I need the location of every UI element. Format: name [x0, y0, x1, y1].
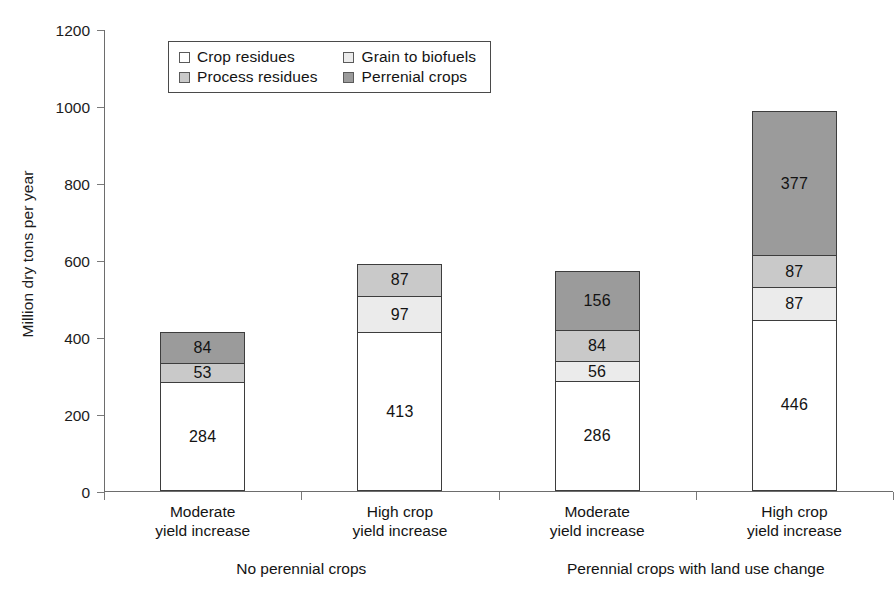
bar-segment-value-label: 87: [391, 272, 409, 288]
bar-segment[interactable]: 56: [555, 361, 640, 383]
legend-swatch-icon: [343, 72, 354, 83]
y-axis-tick-label: 800: [64, 176, 90, 194]
bar-segment-value-label: 286: [583, 428, 610, 444]
chart-legend: Crop residuesGrain to biofuelsProcess re…: [168, 41, 491, 93]
legend-item-label: Grain to biofuels: [361, 48, 476, 66]
y-axis-tick: 0: [97, 492, 104, 493]
x-axis-category-label-line: yield increase: [696, 522, 893, 541]
y-axis-title: Million dry tons per year: [19, 104, 37, 404]
x-axis-tick: [696, 492, 697, 500]
plot-area: 020040060080010001200 284538441397872865…: [104, 30, 893, 492]
bar-stack[interactable]: 2845384: [160, 333, 245, 491]
bar-stack[interactable]: 4468787377: [752, 112, 837, 491]
x-axis-category-label-line: High crop: [696, 503, 893, 522]
bar-segment-value-label: 97: [391, 307, 409, 323]
bar-segment[interactable]: 446: [752, 320, 837, 492]
y-axis-tick: 800: [97, 184, 104, 185]
bar-segment[interactable]: 87: [357, 264, 442, 297]
y-axis-tick-label: 600: [64, 253, 90, 271]
legend-item[interactable]: Process residues: [179, 68, 317, 86]
bar-stack[interactable]: 2865684156: [555, 272, 640, 491]
bar-segment-value-label: 156: [583, 293, 610, 309]
legend-item[interactable]: Grain to biofuels: [343, 48, 476, 66]
y-axis-tick-label: 0: [81, 484, 90, 502]
x-axis-category-label-line: yield increase: [104, 522, 301, 541]
y-axis-tick: 200: [97, 415, 104, 416]
x-axis-category-label: High cropyield increase: [301, 503, 498, 541]
y-axis-tick-label: 400: [64, 330, 90, 348]
bar-segment-value-label: 284: [189, 429, 216, 445]
x-axis-category-label-line: yield increase: [301, 522, 498, 541]
legend-item-label: Crop residues: [197, 48, 295, 66]
bar-segment[interactable]: 84: [555, 330, 640, 362]
bar-segment-value-label: 87: [785, 264, 803, 280]
legend-swatch-icon: [179, 52, 190, 63]
legend-item-label: Process residues: [197, 68, 317, 86]
x-axis-category-label: Moderateyield increase: [104, 503, 301, 541]
legend-swatch-icon: [343, 52, 354, 63]
bar-segment-value-label: 377: [781, 176, 808, 192]
y-axis-tick: 1000: [97, 107, 104, 108]
bar-segment-value-label: 53: [194, 365, 212, 381]
y-axis-tick-label: 1200: [56, 22, 90, 40]
legend-item-label: Perrenial crops: [361, 68, 467, 86]
stacked-bar-chart: Million dry tons per year 02004006008001…: [0, 0, 894, 608]
bar-segment[interactable]: 53: [160, 363, 245, 383]
y-axis-tick-label: 200: [64, 407, 90, 425]
bar-segment[interactable]: 87: [752, 255, 837, 288]
y-axis-tick: 400: [97, 338, 104, 339]
bar-segment-value-label: 56: [588, 364, 606, 380]
x-axis-category-label-line: Moderate: [104, 503, 301, 522]
bar-segment[interactable]: 156: [555, 271, 640, 331]
x-axis-group-label: Perennial crops with land use change: [499, 560, 894, 578]
bar-segment-value-label: 446: [781, 397, 808, 413]
bar-segment[interactable]: 377: [752, 111, 837, 256]
x-axis-category-label-line: yield increase: [499, 522, 696, 541]
x-axis-tick: [104, 492, 105, 500]
bar-segment[interactable]: 84: [160, 332, 245, 364]
bar-stack[interactable]: 4139787: [357, 265, 442, 491]
y-axis-tick: 600: [97, 261, 104, 262]
bar-segment[interactable]: 413: [357, 332, 442, 491]
x-axis-tick: [301, 492, 302, 500]
bar-segment[interactable]: 97: [357, 296, 442, 333]
bar-segment-value-label: 413: [386, 404, 413, 420]
bar-segment-value-label: 87: [785, 296, 803, 312]
x-axis-category-label: High cropyield increase: [696, 503, 893, 541]
bar-segment[interactable]: 87: [752, 287, 837, 320]
x-axis-category-label-line: Moderate: [499, 503, 696, 522]
x-axis-category-label: Moderateyield increase: [499, 503, 696, 541]
y-axis-line: [104, 30, 105, 492]
x-axis-category-label-line: High crop: [301, 503, 498, 522]
bar-segment[interactable]: 284: [160, 382, 245, 491]
legend-item[interactable]: Perrenial crops: [343, 68, 476, 86]
bar-segment-value-label: 84: [588, 338, 606, 354]
legend-item[interactable]: Crop residues: [179, 48, 317, 66]
bar-segment-value-label: 84: [194, 340, 212, 356]
y-axis-tick: 1200: [97, 30, 104, 31]
x-axis-group-label: No perennial crops: [104, 560, 499, 578]
x-axis-tick: [499, 492, 500, 500]
legend-swatch-icon: [179, 72, 190, 83]
bar-segment[interactable]: 286: [555, 381, 640, 491]
y-axis-tick-label: 1000: [56, 99, 90, 117]
